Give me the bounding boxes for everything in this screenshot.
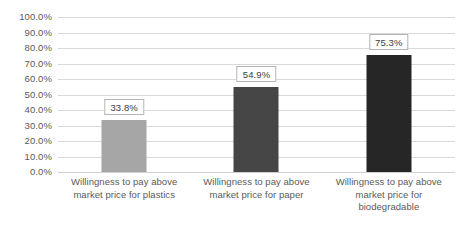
gridline: [58, 172, 455, 173]
x-axis-category-label-line: market price for paper: [190, 189, 322, 202]
bar-data-label: 33.8%: [104, 99, 143, 115]
y-axis-tick-label: 40.0%: [0, 105, 52, 115]
x-axis-category-labels: Willingness to pay abovemarket price for…: [58, 176, 455, 228]
x-axis-category-label-line: Willingness to pay above: [190, 176, 322, 189]
bar-slot: 33.8%: [58, 17, 190, 172]
y-axis-tick-label: 50.0%: [0, 90, 52, 100]
bar[interactable]: [102, 120, 147, 172]
x-axis-category-label: Willingness to pay abovemarket price for…: [323, 176, 455, 214]
plot-area: 33.8%54.9%75.3%: [58, 17, 455, 172]
x-axis-category-label: Willingness to pay abovemarket price for…: [58, 176, 190, 201]
bar-chart: 100.0%90.0%80.0%70.0%60.0%50.0%40.0%30.0…: [0, 0, 473, 231]
bar-slot: 75.3%: [323, 17, 455, 172]
bar-data-label: 54.9%: [237, 66, 276, 82]
y-axis-tick-label: 100.0%: [0, 12, 52, 22]
y-axis: 100.0%90.0%80.0%70.0%60.0%50.0%40.0%30.0…: [0, 17, 52, 172]
bar-data-label: 75.3%: [369, 34, 408, 50]
bar-slot: 54.9%: [190, 17, 322, 172]
y-axis-tick-label: 10.0%: [0, 152, 52, 162]
x-axis-category-label: Willingness to pay abovemarket price for…: [190, 176, 322, 201]
x-axis-category-label-line: market price for plastics: [58, 189, 190, 202]
y-axis-tick-label: 20.0%: [0, 136, 52, 146]
x-axis-category-label-line: biodegradable: [323, 201, 455, 214]
y-axis-tick-label: 90.0%: [0, 28, 52, 38]
y-axis-tick-label: 60.0%: [0, 74, 52, 84]
y-axis-tick-label: 70.0%: [0, 59, 52, 69]
y-axis-tick-label: 80.0%: [0, 43, 52, 53]
y-axis-tick-label: 0.0%: [0, 167, 52, 177]
y-axis-tick-label: 30.0%: [0, 121, 52, 131]
x-axis-category-label-line: Willingness to pay above: [58, 176, 190, 189]
x-axis-category-label-line: market price for: [323, 189, 455, 202]
bar[interactable]: [234, 87, 279, 172]
bar[interactable]: [366, 55, 411, 172]
x-axis-category-label-line: Willingness to pay above: [323, 176, 455, 189]
